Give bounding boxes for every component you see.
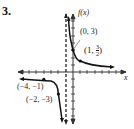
label-point-0-3: (0, 3) (80, 27, 97, 36)
label-point-neg4-neg1: (−4, −1) (17, 82, 43, 91)
point-neg4-neg1 (42, 78, 45, 81)
y-axis-label: f(x) (78, 8, 89, 17)
label-point-1-1.5: (1, 32) (84, 44, 102, 57)
point-1-1.5 (79, 59, 82, 62)
point-neg2-neg3 (57, 92, 60, 95)
y-axis (71, 14, 75, 124)
x-axis-label: x (124, 73, 128, 82)
label-point-neg2-neg3: (−2, −3) (26, 95, 52, 104)
graph (0, 0, 134, 129)
x-axis (18, 70, 126, 74)
curve-right-branch (69, 18, 113, 67)
